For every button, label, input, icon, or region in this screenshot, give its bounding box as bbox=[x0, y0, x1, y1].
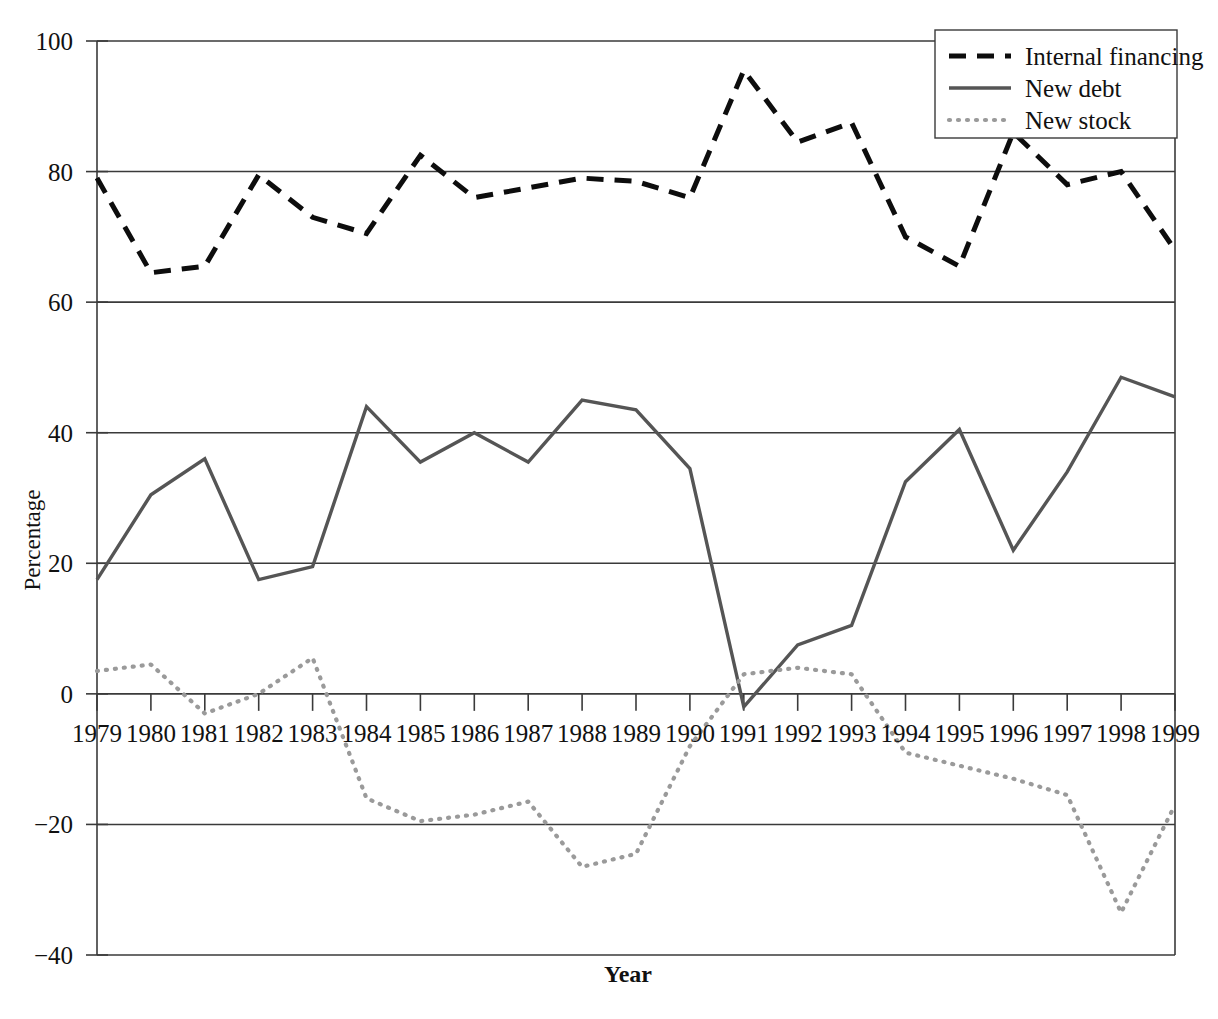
x-tick-label-1993: 1993 bbox=[827, 720, 877, 747]
line-chart-svg: 1979198019811982198319841985198619871988… bbox=[0, 0, 1218, 1019]
x-tick-label-1996: 1996 bbox=[988, 720, 1038, 747]
x-tick-label-1991: 1991 bbox=[719, 720, 769, 747]
x-tick-label-1997: 1997 bbox=[1042, 720, 1092, 747]
x-tick-label-1982: 1982 bbox=[234, 720, 284, 747]
y-tick-label-0: 0 bbox=[61, 681, 74, 708]
x-tick-label-1994: 1994 bbox=[881, 720, 932, 747]
x-tick-label-1995: 1995 bbox=[934, 720, 984, 747]
x-tick-marks bbox=[97, 694, 1175, 711]
y-tick-label-100: 100 bbox=[36, 28, 74, 55]
y-tick-label--40: −40 bbox=[34, 942, 73, 969]
x-tick-label-1983: 1983 bbox=[288, 720, 338, 747]
y-tick-label-60: 60 bbox=[48, 289, 73, 316]
series-line-new-debt bbox=[97, 377, 1175, 707]
x-tick-label-1985: 1985 bbox=[395, 720, 445, 747]
x-tick-label-1988: 1988 bbox=[557, 720, 607, 747]
x-tick-label-1986: 1986 bbox=[449, 720, 499, 747]
x-tick-labels: 1979198019811982198319841985198619871988… bbox=[72, 720, 1200, 747]
x-tick-label-1999: 1999 bbox=[1150, 720, 1200, 747]
x-axis-title: Year bbox=[604, 961, 652, 987]
x-tick-label-1989: 1989 bbox=[611, 720, 661, 747]
y-tick-label--20: −20 bbox=[34, 811, 73, 838]
x-tick-label-1984: 1984 bbox=[342, 720, 393, 747]
x-tick-label-1987: 1987 bbox=[503, 720, 553, 747]
legend-label-new-debt: New debt bbox=[1025, 75, 1122, 102]
x-tick-label-1980: 1980 bbox=[126, 720, 176, 747]
chart-legend[interactable]: Internal financingNew debtNew stock bbox=[935, 30, 1204, 138]
data-series-layer bbox=[97, 70, 1175, 912]
legend-label-new-stock: New stock bbox=[1025, 107, 1132, 134]
x-tick-label-1992: 1992 bbox=[773, 720, 823, 747]
chart-figure: 1979198019811982198319841985198619871988… bbox=[0, 0, 1218, 1019]
y-tick-label-20: 20 bbox=[48, 550, 73, 577]
x-tick-label-1979: 1979 bbox=[72, 720, 122, 747]
y-tick-label-40: 40 bbox=[48, 420, 73, 447]
x-tick-label-1981: 1981 bbox=[180, 720, 230, 747]
y-axis-title: Percentage bbox=[20, 490, 45, 591]
x-tick-label-1998: 1998 bbox=[1096, 720, 1146, 747]
y-tick-label-80: 80 bbox=[48, 159, 73, 186]
legend-label-internal-financing: Internal financing bbox=[1025, 43, 1204, 70]
x-tick-label-1990: 1990 bbox=[665, 720, 715, 747]
